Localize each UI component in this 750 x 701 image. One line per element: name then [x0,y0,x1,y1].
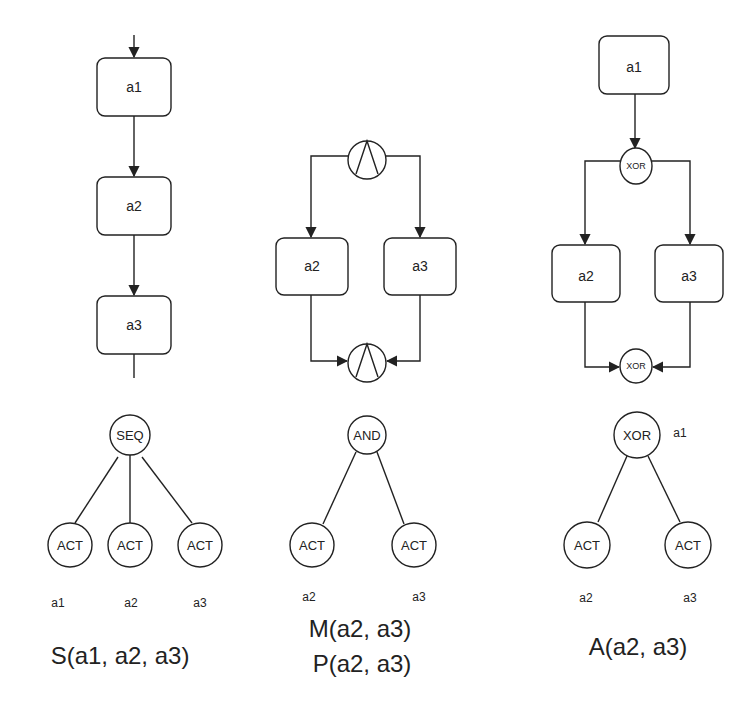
xor-merge-left-arrow [585,302,619,367]
and-process-flow: a2 a3 [276,141,456,382]
formula-m: M(a2, a3) [309,615,412,642]
and-diagram: a2 a3 AND ACT ACT a2 a3 M(a2, a3) P(a2, … [276,141,456,677]
leaf-label-a2: a2 [124,596,138,610]
formula-p: P(a2, a3) [313,650,412,677]
process-diagrams-canvas: a1 a2 a3 SEQ ACT ACT ACT a1 a2 a3 S [0,0,750,701]
tree-node-xor-label: XOR [623,428,651,443]
activity-box-a2-label: a2 [578,268,594,284]
and-split-gateway[interactable] [348,141,386,179]
activity-box-a1-label: a1 [626,59,642,75]
xor-branch-right-arrow [652,161,690,244]
activity-box-a3-label: a3 [126,317,142,333]
tree-edge [75,457,118,523]
xor-tree: XOR a1 ACT ACT a2 a3 [564,412,711,605]
xor-split-gateway-label: XOR [626,161,646,171]
xor-branch-left-arrow [585,161,620,244]
tree-edge [648,456,680,522]
tree-node-act-1-label: ACT [57,538,83,553]
leaf-label-a2: a2 [302,590,316,604]
sequence-diagram: a1 a2 a3 SEQ ACT ACT ACT a1 a2 a3 S [48,35,222,669]
and-merge-left-arrow [311,295,347,361]
leaf-label-a1: a1 [51,596,65,610]
leaf-label-a3: a3 [412,590,426,604]
and-tree: AND ACT ACT a2 a3 [290,416,436,604]
leaf-label-a3: a3 [683,591,697,605]
tree-root-annotation-a1: a1 [673,426,687,440]
and-branch-right-arrow [386,156,420,237]
and-join-gateway[interactable] [348,344,386,382]
and-merge-right-arrow [387,295,420,361]
tree-node-and-label: AND [353,428,380,443]
sequence-tree: SEQ ACT ACT ACT a1 a2 a3 [48,415,222,610]
tree-edge [142,457,192,523]
tree-edge [598,456,627,522]
xor-join-gateway-label: XOR [626,361,646,371]
activity-box-a3-label: a3 [681,268,697,284]
formula-xor: A(a2, a3) [589,633,688,660]
tree-edge [377,452,404,524]
xor-merge-right-arrow [653,302,690,367]
tree-node-act-2-label: ACT [675,538,701,553]
tree-node-act-2-label: ACT [117,538,143,553]
and-branch-left-arrow [311,156,348,237]
leaf-label-a2: a2 [579,591,593,605]
formula-sequence: S(a1, a2, a3) [51,642,190,669]
tree-node-act-3-label: ACT [187,538,213,553]
activity-box-a2-label: a2 [304,258,320,274]
xor-diagram: a1 XOR a2 a3 XOR XOR a1 ACT ACT [552,36,723,660]
activity-box-a1-label: a1 [126,79,142,95]
tree-node-act-1-label: ACT [299,538,325,553]
tree-node-act-1-label: ACT [574,538,600,553]
tree-node-act-2-label: ACT [401,538,427,553]
activity-box-a2-label: a2 [126,198,142,214]
xor-process-flow: a1 XOR a2 a3 XOR [552,36,723,383]
leaf-label-a3: a3 [193,596,207,610]
tree-node-seq-label: SEQ [116,428,143,443]
activity-box-a3-label: a3 [412,258,428,274]
sequence-process-flow: a1 a2 a3 [97,35,171,378]
tree-edge [323,452,356,524]
